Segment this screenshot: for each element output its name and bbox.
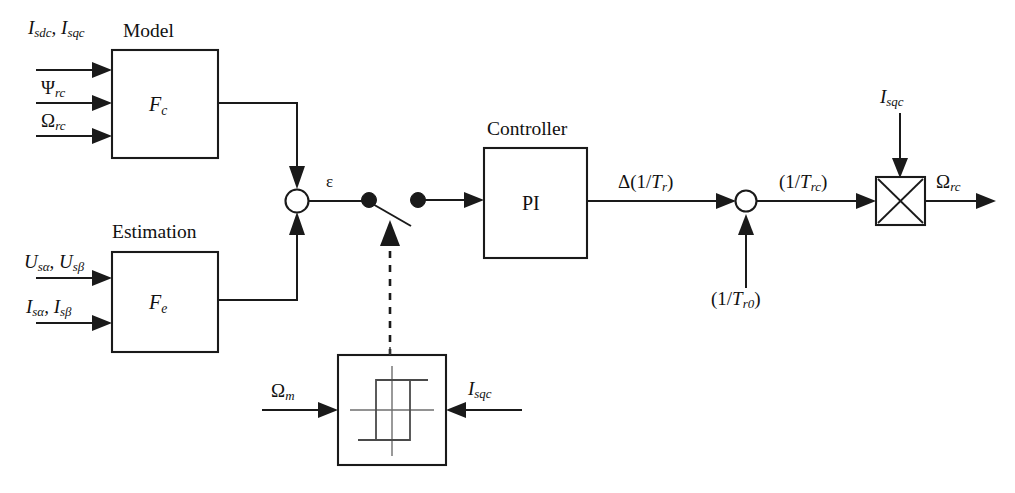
switch-control-dashed-link <box>380 220 400 356</box>
offset-summing-junction[interactable] <box>736 191 757 212</box>
controller-block-symbol: PI <box>522 193 540 213</box>
model-block-symbol: Fc <box>149 94 167 117</box>
final-output-label: Ωrc <box>936 172 960 194</box>
multiplier-top-input-wire <box>892 113 908 178</box>
estimation-block-caption: Estimation <box>112 222 197 242</box>
error-summing-junction[interactable] <box>286 190 309 213</box>
summer-output-label: (1/Trc) <box>779 172 827 194</box>
estimation-input-label-voltages: Usα, Usβ <box>24 252 84 274</box>
model-block-caption: Model <box>123 21 174 41</box>
model-input-label-flux: Ψrc <box>41 78 65 100</box>
estimation-block-symbol: Fe <box>149 292 167 315</box>
model-input-label-speed: Ωrc <box>41 111 65 133</box>
controller-output-label: Δ(1/Tr) <box>618 172 673 194</box>
switch-blade[interactable] <box>371 203 411 226</box>
block-diagram-figure: Model Fc Isdc, Isqc Ψrc Ωrc Estimation F… <box>0 0 1015 493</box>
offset-input-label: (1/Tr0) <box>711 289 761 311</box>
hysteresis-input-arrow-current <box>446 402 522 418</box>
model-input-label-currents: Isdc, Isqc <box>28 18 85 40</box>
diagram-canvas <box>0 0 1015 493</box>
offset-input-wire <box>738 214 754 288</box>
switch-right-node[interactable] <box>411 193 426 208</box>
final-output-wire <box>925 193 996 209</box>
multiplier-top-input-label: Isqc <box>880 87 904 109</box>
estimation-input-label-currents: Isα, Isβ <box>26 297 71 319</box>
controller-output-wire <box>587 193 736 209</box>
hysteresis-input-label-current: Isqc <box>468 379 492 401</box>
switch-to-controller-wire <box>425 192 484 208</box>
hysteresis-input-label-speed: Ωm <box>271 381 294 403</box>
model-output-wire <box>218 103 305 189</box>
controller-block-caption: Controller <box>487 119 567 139</box>
estimation-output-wire <box>218 212 305 300</box>
model-input-arrow-currents <box>36 62 112 78</box>
summer-to-multiplier-wire <box>757 193 877 209</box>
error-signal-label: ε <box>326 173 333 190</box>
hysteresis-input-arrow-speed <box>262 402 338 418</box>
